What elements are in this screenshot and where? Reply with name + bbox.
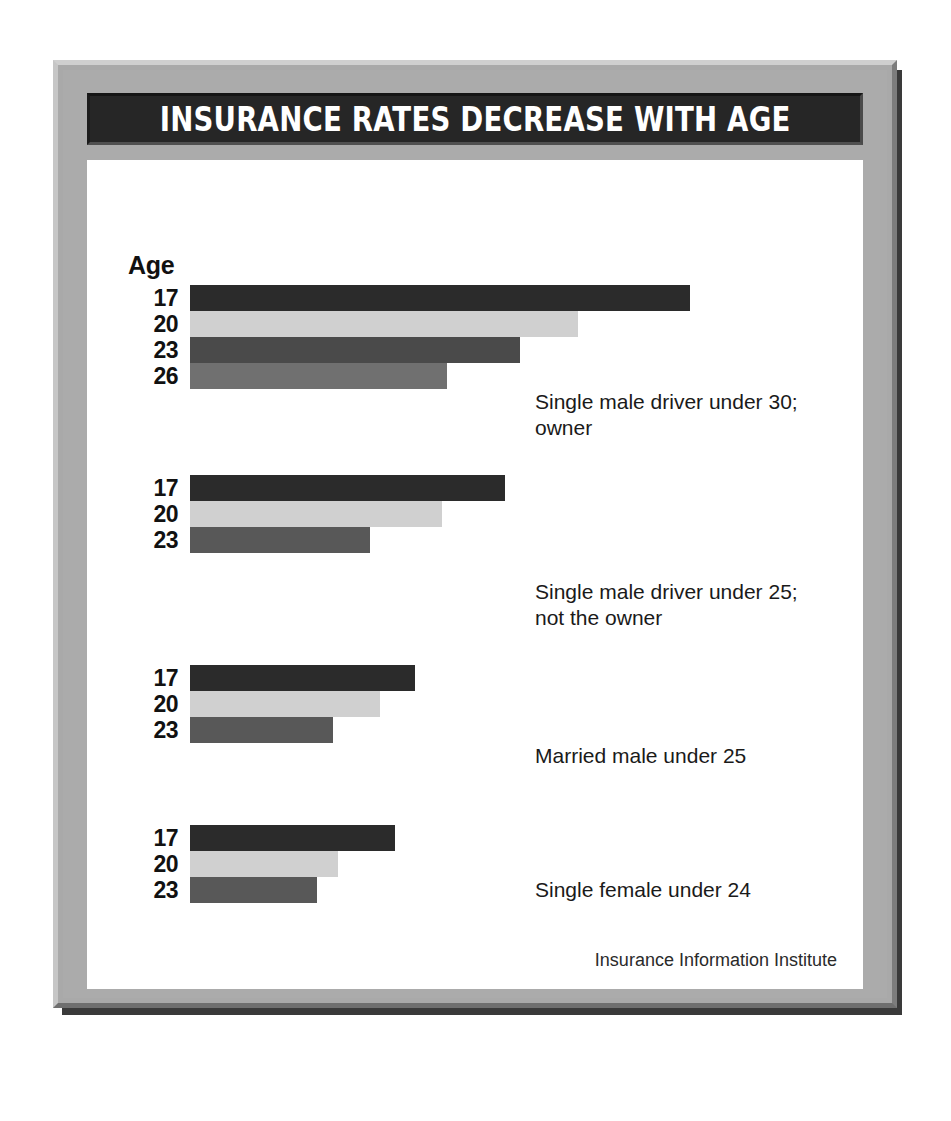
group-caption: Single male driver under 25; not the own… — [535, 579, 798, 631]
source-credit: Insurance Information Institute — [595, 950, 837, 971]
bar-row: 20 — [87, 311, 863, 337]
bar-row: 23 — [87, 527, 863, 553]
chart-canvas: Age 17202326Single male driver under 30;… — [87, 160, 863, 989]
bar — [190, 527, 370, 553]
bar-age-label: 23 — [87, 717, 178, 743]
bar-row: 26 — [87, 363, 863, 389]
group-caption: Single male driver under 30; owner — [535, 389, 798, 441]
bar — [190, 665, 415, 691]
bar-age-label: 26 — [87, 363, 178, 389]
bar-age-label: 23 — [87, 527, 178, 553]
bar-age-label: 20 — [87, 691, 178, 717]
bar-row: 17 — [87, 825, 863, 851]
bar-row: 20 — [87, 851, 863, 877]
bar-row: 20 — [87, 501, 863, 527]
poster-inner-panel: INSURANCE RATES DECREASE WITH AGE Age 17… — [63, 70, 887, 998]
bar-age-label: 20 — [87, 501, 178, 527]
group-caption: Married male under 25 — [535, 743, 746, 769]
bar-row: 17 — [87, 285, 863, 311]
bar — [190, 851, 338, 877]
bar-row: 23 — [87, 337, 863, 363]
poster-frame: INSURANCE RATES DECREASE WITH AGE Age 17… — [53, 60, 897, 1008]
bar — [190, 337, 520, 363]
bar-row: 17 — [87, 475, 863, 501]
bar — [190, 717, 333, 743]
bar-row: 20 — [87, 691, 863, 717]
bar-age-label: 20 — [87, 311, 178, 337]
bar-age-label: 23 — [87, 337, 178, 363]
page-title: INSURANCE RATES DECREASE WITH AGE — [160, 100, 791, 139]
bar-age-label: 20 — [87, 851, 178, 877]
bar — [190, 691, 380, 717]
bar-group: 172023Single female under 24 — [87, 825, 863, 903]
bar — [190, 877, 317, 903]
bar — [190, 825, 395, 851]
bar-group: 172023Single male driver under 25; not t… — [87, 475, 863, 553]
bar-row: 17 — [87, 665, 863, 691]
bar — [190, 285, 690, 311]
bar-age-label: 23 — [87, 877, 178, 903]
bar-group: 172023Married male under 25 — [87, 665, 863, 743]
bar-age-label: 17 — [87, 825, 178, 851]
bar-age-label: 17 — [87, 665, 178, 691]
bar-group: 17202326Single male driver under 30; own… — [87, 285, 863, 389]
age-axis-header: Age — [128, 251, 174, 280]
bar — [190, 501, 442, 527]
bar-age-label: 17 — [87, 285, 178, 311]
bar-age-label: 17 — [87, 475, 178, 501]
bar — [190, 363, 447, 389]
bar-row: 23 — [87, 717, 863, 743]
title-banner: INSURANCE RATES DECREASE WITH AGE — [87, 93, 863, 145]
bar — [190, 311, 578, 337]
bar — [190, 475, 505, 501]
group-caption: Single female under 24 — [535, 877, 751, 903]
